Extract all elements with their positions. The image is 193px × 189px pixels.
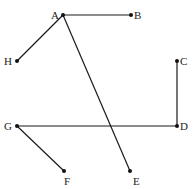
label-d: D	[180, 120, 188, 132]
label-e: E	[133, 175, 140, 187]
label-f: F	[64, 175, 70, 187]
node-labels: A B C D E F G H	[4, 9, 188, 187]
edge-g-f	[17, 126, 64, 171]
label-b: B	[134, 9, 141, 21]
node-h	[15, 59, 19, 63]
edge-a-e	[63, 15, 130, 171]
node-b	[129, 13, 133, 17]
node-e	[128, 169, 132, 173]
edges	[17, 15, 177, 171]
node-a	[61, 13, 65, 17]
node-d	[175, 124, 179, 128]
node-g	[15, 124, 19, 128]
label-c: C	[180, 55, 187, 67]
label-h: H	[4, 55, 12, 67]
label-a: A	[51, 9, 59, 21]
edge-a-h	[17, 15, 63, 61]
label-g: G	[4, 120, 12, 132]
graph-diagram: A B C D E F G H	[0, 0, 193, 189]
node-f	[62, 169, 66, 173]
node-c	[175, 59, 179, 63]
